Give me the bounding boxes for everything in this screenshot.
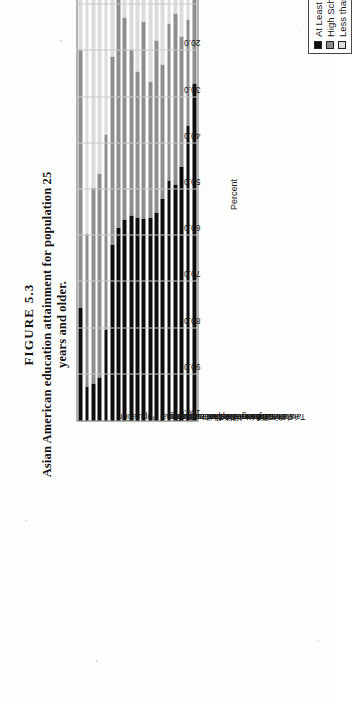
category-axis-labels: National PopulationHmongLaotianCambodian…	[199, 0, 249, 422]
bar-stack	[155, 0, 159, 421]
bar-segment	[104, 0, 108, 135]
bar-segment	[91, 383, 95, 420]
bar-segment	[136, 72, 140, 218]
bar-stack	[98, 0, 102, 421]
bar-stack	[85, 0, 89, 421]
legend-swatch-icon	[314, 41, 322, 49]
gridline	[78, 327, 198, 328]
scan-speck	[96, 660, 98, 662]
scan-speck	[318, 640, 319, 642]
bar-segment	[98, 378, 102, 421]
bar-segment	[174, 14, 178, 185]
legend-item: High School Diploma	[324, 0, 336, 49]
bar-stack	[180, 0, 184, 421]
bar-segment	[123, 219, 127, 420]
bar-segment	[180, 36, 184, 166]
bar-segment	[91, 0, 95, 188]
bar-segment	[136, 217, 140, 420]
bar-series-container	[78, 0, 198, 421]
bar-segment	[161, 199, 165, 421]
bar-stack	[136, 0, 140, 421]
bar-stack	[174, 0, 178, 421]
value-axis-title: Percent	[229, 150, 239, 240]
bar-segment	[123, 0, 127, 17]
bar-stack	[117, 0, 121, 421]
bar-segment	[148, 218, 152, 421]
legend-swatch-icon	[326, 41, 334, 49]
bar-segment	[104, 330, 108, 421]
legend-item-label: Less than High School Diploma	[337, 0, 348, 37]
bar-segment	[180, 0, 184, 36]
bar-stack	[123, 0, 127, 421]
bar-stack	[110, 0, 114, 421]
figure-caption: Asian American education attainment for …	[40, 160, 70, 490]
bar-segment	[174, 185, 178, 421]
scan-speck	[300, 30, 301, 31]
gridline	[78, 4, 198, 5]
legend-box: At Least a BA/BSHigh School DiplomaLess …	[308, 0, 352, 54]
legend-item-label: At Least a BA/BS	[313, 0, 324, 37]
bar-segment	[161, 0, 165, 65]
figure-title-block: FIGURE 5.3 Asian American education atta…	[21, 160, 70, 490]
bar-segment	[79, 308, 83, 421]
bar-segment	[117, 228, 121, 421]
bar-segment	[104, 135, 108, 330]
bar-segment	[85, 0, 89, 234]
bar-segment	[79, 0, 83, 49]
bar-segment	[136, 0, 140, 72]
bar-stack	[161, 0, 165, 421]
gridline	[78, 50, 198, 51]
bar-stack	[79, 0, 83, 421]
bar-segment	[180, 166, 184, 420]
bar-segment	[174, 0, 178, 14]
plot-area	[77, 0, 199, 422]
bar-stack	[192, 0, 196, 421]
gridline	[78, 235, 198, 236]
legend-item: Less than High School Diploma	[336, 0, 348, 49]
bar-segment	[129, 49, 133, 215]
chart-legend: At Least a BA/BSHigh School DiplomaLess …	[308, 0, 352, 54]
bar-stack	[129, 0, 133, 421]
bar-segment	[148, 0, 152, 81]
bar-segment	[117, 0, 121, 228]
bar-segment	[155, 41, 159, 213]
legend-item: At Least a BA/BS	[312, 0, 324, 49]
gridline	[78, 189, 198, 190]
bar-segment	[98, 174, 102, 378]
bar-stack	[148, 0, 152, 421]
bar-segment	[129, 0, 133, 49]
gridline	[78, 96, 198, 97]
bar-segment	[167, 180, 171, 420]
bar-segment	[142, 219, 146, 421]
figure-number: FIGURE 5.3	[21, 160, 37, 490]
bar-stack	[104, 0, 108, 421]
bar-segment	[85, 386, 89, 420]
bar-segment	[110, 244, 114, 420]
bar-segment	[110, 57, 114, 244]
bar-segment	[110, 0, 114, 57]
bar-segment	[79, 49, 83, 308]
bar-segment	[155, 0, 159, 41]
legend-swatch-icon	[338, 41, 346, 49]
chart-canvas: 0.010.020.030.040.050.060.070.080.090.01…	[73, 0, 248, 468]
bar-stack	[91, 0, 95, 421]
bar-stack	[186, 0, 190, 421]
bar-segment	[155, 213, 159, 421]
scan-speck	[205, 92, 206, 93]
bar-stack	[142, 0, 146, 421]
scan-speck	[25, 520, 27, 521]
bar-segment	[148, 81, 152, 217]
bar-segment	[161, 65, 165, 199]
bar-stack	[167, 0, 171, 421]
bar-segment	[186, 20, 190, 126]
bar-segment	[167, 24, 171, 181]
bar-segment	[98, 0, 102, 174]
legend-item-label: High School Diploma	[325, 0, 336, 37]
category-label: Taiwanese	[265, 412, 305, 422]
gridline	[78, 142, 198, 143]
gridline	[78, 281, 198, 282]
gridline	[78, 373, 198, 374]
bar-segment	[91, 188, 95, 383]
scan-speck	[60, 40, 62, 42]
bar-segment	[85, 234, 89, 386]
